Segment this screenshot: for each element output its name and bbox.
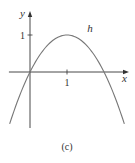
y-axis-arrow	[28, 11, 32, 17]
y-tick-label: 1	[20, 30, 25, 41]
axes	[9, 11, 129, 128]
x-axis-label: x	[121, 72, 127, 84]
ticks: 11	[20, 30, 70, 89]
y-axis-label: y	[19, 7, 25, 19]
series-label-h: h	[87, 22, 93, 34]
chart: 11 h x y (c)	[0, 0, 135, 163]
figure-caption: (c)	[61, 141, 72, 153]
x-tick-label: 1	[65, 77, 70, 88]
